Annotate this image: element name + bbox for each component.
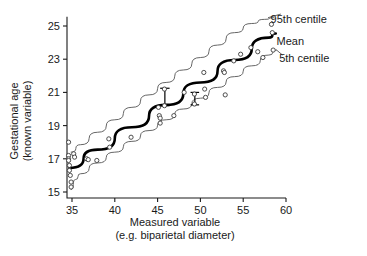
annotation-upper-centile: 95th centile xyxy=(271,13,327,25)
x-axis-title: Measured variable (e.g. biparietal diame… xyxy=(60,216,290,242)
data-point xyxy=(107,137,111,141)
y-tick-label: 15 xyxy=(27,187,60,198)
x-tick-label: 45 xyxy=(151,205,163,216)
data-point xyxy=(239,52,243,56)
annotation-lower-centile: 5th centile xyxy=(279,52,329,64)
data-point xyxy=(232,59,236,63)
centile-curves xyxy=(69,18,276,190)
curve-95th-centile xyxy=(71,18,274,152)
x-tick-label: 50 xyxy=(194,205,206,216)
data-point xyxy=(66,158,70,162)
data-point xyxy=(222,70,226,74)
data-point xyxy=(256,50,260,54)
y-axis-title-line1: Gestational age xyxy=(8,56,21,186)
data-point xyxy=(67,163,71,167)
data-point xyxy=(249,45,253,49)
data-point xyxy=(86,158,90,162)
data-point xyxy=(158,116,162,120)
y-axis-title: Gestational age (known variable) xyxy=(8,56,34,186)
x-tick-label: 55 xyxy=(237,205,249,216)
data-point xyxy=(192,102,196,106)
data-point xyxy=(261,55,265,59)
data-point xyxy=(162,104,166,108)
data-point xyxy=(66,140,70,144)
data-point xyxy=(72,155,76,159)
curve-5th-centile xyxy=(71,50,276,189)
data-point xyxy=(69,185,73,189)
y-tick-label: 25 xyxy=(27,21,60,32)
x-axis-title-line1: Measured variable xyxy=(60,216,290,229)
data-point xyxy=(223,93,227,97)
data-point xyxy=(182,90,186,94)
x-axis-title-line2: (e.g. biparietal diameter) xyxy=(60,229,290,242)
data-point xyxy=(192,92,196,96)
data-point xyxy=(158,121,162,125)
curve-mean xyxy=(69,33,275,167)
data-point xyxy=(108,145,112,149)
y-axis-title-line2: (known variable) xyxy=(21,56,34,186)
data-point xyxy=(270,31,274,35)
data-point xyxy=(202,70,206,74)
data-point xyxy=(203,87,207,91)
data-point xyxy=(203,95,207,99)
data-point xyxy=(172,114,176,118)
data-point xyxy=(95,158,99,162)
annotation-mean-line: Mean xyxy=(277,35,305,47)
data-point xyxy=(67,168,71,172)
data-point xyxy=(69,180,73,184)
data-point xyxy=(162,87,166,91)
data-point xyxy=(68,173,72,177)
chart-figure: 151719212325 354045505560 Gestational ag… xyxy=(0,0,367,256)
data-point xyxy=(129,135,133,139)
x-tick-label: 35 xyxy=(66,205,78,216)
data-point xyxy=(271,48,275,52)
data-point xyxy=(156,105,160,109)
x-tick-label: 40 xyxy=(109,205,121,216)
x-tick-label: 60 xyxy=(280,205,292,216)
